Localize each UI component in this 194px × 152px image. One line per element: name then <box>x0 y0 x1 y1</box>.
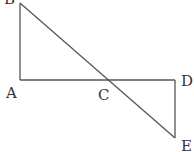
label-b: B <box>4 0 15 8</box>
label-d: D <box>181 72 193 90</box>
geometry-diagram: B A C D E <box>0 0 194 152</box>
label-a: A <box>5 84 17 102</box>
label-c: C <box>98 86 109 104</box>
segment-be <box>20 3 175 138</box>
label-e: E <box>181 137 192 152</box>
